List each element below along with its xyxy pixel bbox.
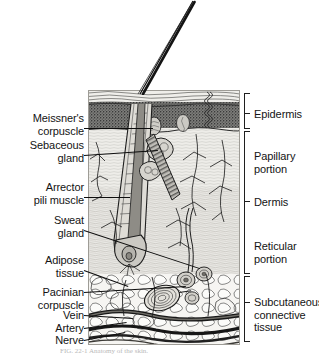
bracket-epidermis xyxy=(244,93,251,129)
label-dermis: Dermis xyxy=(254,196,288,209)
label-subcutaneous-connective-tissue: Subcutaneous connective tissue xyxy=(254,296,319,334)
tick-subcutaneous xyxy=(244,302,250,303)
label-line: Adipose xyxy=(6,254,84,267)
label-line: Reticular xyxy=(254,240,297,253)
label-sebaceous-gland: Sebaceous gland xyxy=(6,139,84,164)
label-reticular-portion: Reticular portion xyxy=(254,240,297,265)
label-line: gland xyxy=(6,227,84,240)
label-line: Sweat xyxy=(6,214,84,227)
label-line: Epidermis xyxy=(254,108,302,121)
label-arrector-pili-muscle: Arrector pili muscle xyxy=(6,181,84,206)
label-line: Subcutaneous xyxy=(254,296,319,309)
label-pacinian-corpuscle: Pacinian corpuscle xyxy=(6,286,84,311)
label-line: portion xyxy=(254,163,295,176)
label-line: pili muscle xyxy=(6,194,84,207)
label-line: Nerve xyxy=(6,334,84,347)
figure-caption: FIG. 22-1 Anatomy of the skin. xyxy=(60,347,270,357)
label-line: Sebaceous xyxy=(6,139,84,152)
label-vein: Vein xyxy=(6,309,84,322)
label-sweat-gland: Sweat gland xyxy=(6,214,84,239)
bracket-dermis xyxy=(244,131,251,274)
tick-epidermis xyxy=(244,113,250,114)
label-line: tissue xyxy=(6,267,84,280)
label-artery: Artery xyxy=(6,322,84,335)
leader-arrector-pili-muscle xyxy=(84,197,130,198)
label-line: tissue xyxy=(254,321,319,334)
label-line: Pacinian xyxy=(6,286,84,299)
label-line: portion xyxy=(254,253,297,266)
leader-meissners-corpuscle xyxy=(84,128,153,129)
label-line: corpuscle xyxy=(6,125,84,138)
label-line: connective xyxy=(254,309,319,322)
label-line: Vein xyxy=(6,309,84,322)
label-line: Dermis xyxy=(254,196,288,209)
label-line: gland xyxy=(6,152,84,165)
label-line: Meissner's xyxy=(6,112,84,125)
label-line: Artery xyxy=(6,322,84,335)
label-line: Arrector xyxy=(6,181,84,194)
label-adipose-tissue: Adipose tissue xyxy=(6,254,84,279)
hair-shaft-external xyxy=(100,0,230,95)
label-meissners-corpuscle: Meissner's corpuscle xyxy=(6,112,84,137)
label-line: Papillary xyxy=(254,150,295,163)
tick-dermis xyxy=(244,201,250,202)
label-epidermis: Epidermis xyxy=(254,108,302,121)
skin-diagram-figure: Meissner's corpuscle Sebaceous gland Arr… xyxy=(0,0,319,357)
label-nerve: Nerve xyxy=(6,334,84,347)
bracket-subcutaneous xyxy=(244,276,251,342)
label-papillary-portion: Papillary portion xyxy=(254,150,295,175)
